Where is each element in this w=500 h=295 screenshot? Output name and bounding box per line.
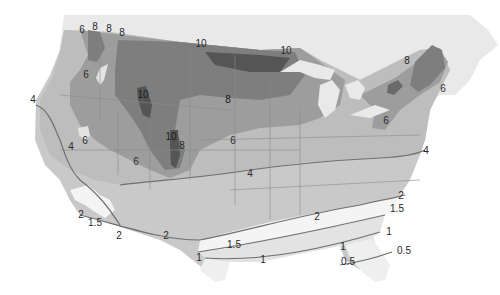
contour-label: 10 <box>137 90 148 100</box>
contour-label: 0.5 <box>341 257 355 267</box>
contour-label: 2 <box>163 231 169 241</box>
contour-label: 6 <box>230 136 236 146</box>
contour-label: 1.5 <box>390 204 404 214</box>
contour-label: 8 <box>92 22 98 32</box>
contour-label: 8 <box>404 56 410 66</box>
contour-label: 6 <box>383 116 389 126</box>
contour-label: 2 <box>116 231 122 241</box>
contour-label: 1.5 <box>227 240 241 250</box>
contour-label: 1 <box>340 242 346 252</box>
contour-label: 4 <box>247 169 253 179</box>
contour-label: 1 <box>260 255 266 265</box>
contour-label: 2 <box>314 212 320 222</box>
contour-label: 6 <box>82 136 88 146</box>
contour-label: 2 <box>398 191 404 201</box>
contour-label: 6 <box>79 25 85 35</box>
contour-label: 10 <box>195 39 206 49</box>
contour-label: 10 <box>280 46 291 56</box>
contour-label: 1 <box>196 253 202 263</box>
contour-label: 2 <box>78 210 84 220</box>
contour-label: 8 <box>225 95 231 105</box>
contour-label: 1.5 <box>88 218 102 228</box>
contour-label: 6 <box>133 157 139 167</box>
contour-label: 4 <box>423 146 429 156</box>
contour-label: 6 <box>440 84 446 94</box>
contour-label: 10 <box>165 132 176 142</box>
contour-label: 8 <box>106 24 112 34</box>
contour-label: 0.5 <box>397 246 411 256</box>
contour-label: 8 <box>119 28 125 38</box>
contour-label: 4 <box>30 95 36 105</box>
contour-label: 1 <box>386 227 392 237</box>
contour-label: 8 <box>179 141 185 151</box>
contour-label: 6 <box>83 70 89 80</box>
contour-label: 4 <box>68 142 74 152</box>
